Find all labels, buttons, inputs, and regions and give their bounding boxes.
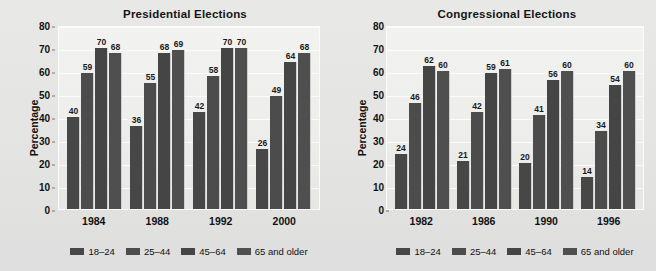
legend-swatch [126,248,140,255]
legend-swatch [181,248,195,255]
y-axis-tick: 30 [39,136,50,147]
bar[interactable] [193,112,206,209]
legend-swatch [396,248,410,255]
bar-wrapper: 68 [109,27,122,209]
x-axis-tick-label: 1992 [189,215,253,227]
bar[interactable] [623,71,636,209]
bar[interactable] [609,85,622,209]
legend-item[interactable]: 65 and older [563,246,634,257]
bar-group: 20415660 [519,27,574,209]
x-axis-tick-label: 1996 [578,215,641,227]
bar-wrapper: 49 [270,27,283,209]
bar-value-label: 55 [146,72,155,82]
bar-value-label: 34 [596,120,605,130]
bar-wrapper: 68 [158,27,171,209]
bar-wrapper: 55 [144,27,157,209]
bar-value-label: 54 [610,74,619,84]
legend-label: 45–64 [199,246,225,257]
bar-wrapper: 21 [457,27,470,209]
bar[interactable] [172,50,185,209]
bar-wrapper: 70 [235,27,248,209]
bar-wrapper: 14 [581,27,594,209]
bar[interactable] [256,149,269,209]
legend-item[interactable]: 18–24 [396,246,440,257]
bar[interactable] [298,53,311,209]
bar[interactable] [109,53,122,209]
bar-value-label: 20 [520,152,529,162]
bar[interactable] [581,177,594,209]
bar-group: 26496468 [256,27,311,209]
y-axis-presidential: 80706050403020100 [28,26,56,210]
bar[interactable] [485,73,498,209]
bar-value-label: 36 [132,115,141,125]
bar[interactable] [561,71,574,209]
legend-swatch [563,248,577,255]
bar[interactable] [437,71,450,209]
bar-wrapper: 62 [423,27,436,209]
bar-value-label: 68 [300,42,309,52]
bar-wrapper: 58 [207,27,220,209]
bar[interactable] [457,161,470,209]
legend-label: 45–64 [525,246,551,257]
chart-canvas: Presidential Elections Percentage 807060… [0,0,656,271]
y-axis-tick: 80 [39,21,50,32]
bar-wrapper: 41 [533,27,546,209]
bar[interactable] [235,48,248,209]
bar[interactable] [144,83,157,210]
bar[interactable] [221,48,234,209]
legend-item[interactable]: 25–44 [126,246,170,257]
bar-groups: 40597068365568694258707026496468 [59,27,319,209]
bar-wrapper: 64 [284,27,297,209]
legend-swatch [507,248,521,255]
bar[interactable] [499,69,512,209]
bar-value-label: 59 [83,62,92,72]
bar-value-label: 14 [582,166,591,176]
bar-value-label: 60 [624,60,633,70]
bar[interactable] [547,80,560,209]
bar-wrapper: 46 [409,27,422,209]
legend-item[interactable]: 45–64 [181,246,225,257]
bar[interactable] [81,73,94,209]
bar[interactable] [519,163,532,209]
bar-value-label: 42 [472,101,481,111]
legend-item[interactable]: 65 and older [237,246,308,257]
legend-label: 25–44 [144,246,170,257]
bar-value-label: 60 [562,60,571,70]
bar-value-label: 61 [500,58,509,68]
legend-item[interactable]: 45–64 [507,246,551,257]
bar-wrapper: 20 [519,27,532,209]
bar[interactable] [409,103,422,209]
legend-label: 18–24 [88,246,114,257]
bar[interactable] [284,62,297,209]
y-axis-tick: 20 [373,159,384,170]
bar-wrapper: 60 [437,27,450,209]
bar[interactable] [158,53,171,209]
legend-presidential: 18–2425–4445–6465 and older [58,243,320,259]
bar-value-label: 68 [160,42,169,52]
x-axis-tick-label: 1984 [62,215,126,227]
bar-value-label: 69 [174,39,183,49]
bar[interactable] [207,76,220,209]
bar[interactable] [270,96,283,209]
y-axis-tick: 0 [378,205,384,216]
bar-value-label: 26 [258,138,267,148]
y-axis-tick: 80 [373,21,384,32]
plot-area-presidential: 40597068365568694258707026496468 [58,26,320,210]
bar[interactable] [533,115,546,209]
bar[interactable] [130,126,143,209]
legend-item[interactable]: 18–24 [70,246,114,257]
bar-wrapper: 56 [547,27,560,209]
bar-value-label: 70 [97,37,106,47]
bar-value-label: 56 [548,69,557,79]
bar[interactable] [595,131,608,209]
bar[interactable] [471,112,484,209]
bar-wrapper: 60 [623,27,636,209]
bar[interactable] [67,117,80,209]
bar[interactable] [95,48,108,209]
x-axis-labels-presidential: 1984198819922000 [58,212,320,230]
legend-item[interactable]: 25–44 [452,246,496,257]
x-axis-tick-label: 1990 [515,215,578,227]
bar[interactable] [423,66,436,209]
y-axis-tick: 70 [373,44,384,55]
bar[interactable] [395,154,408,209]
